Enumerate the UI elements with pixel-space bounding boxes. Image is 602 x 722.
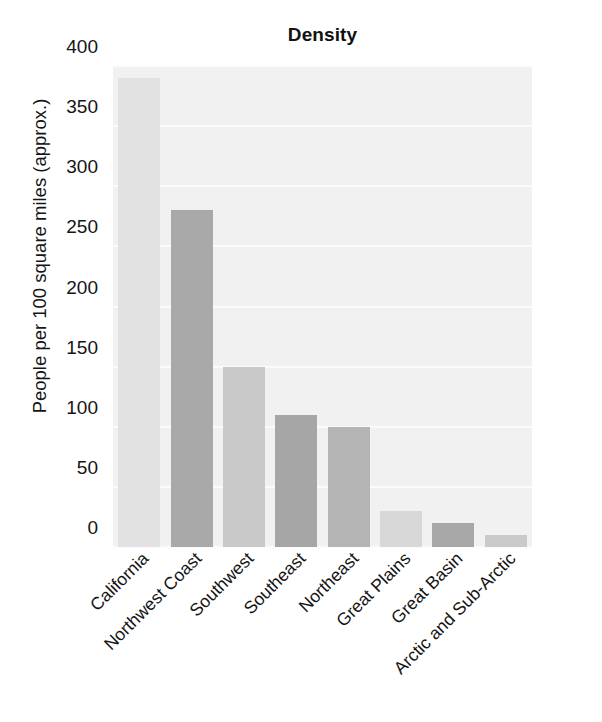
y-axis-tick-labels: 050100150200250300350400 xyxy=(0,66,106,547)
bar-series xyxy=(113,66,532,547)
bar xyxy=(171,210,213,547)
y-tick-label: 50 xyxy=(0,458,106,477)
y-tick-label: 250 xyxy=(0,217,106,236)
y-tick-label: 350 xyxy=(0,97,106,116)
bar xyxy=(485,535,527,547)
y-tick-label: 200 xyxy=(0,278,106,297)
y-tick-label: 150 xyxy=(0,338,106,357)
y-tick-label: 400 xyxy=(0,37,106,56)
bar xyxy=(328,427,370,547)
bar xyxy=(432,523,474,547)
bar xyxy=(118,78,160,547)
bar xyxy=(380,511,422,547)
y-tick-label: 0 xyxy=(0,518,106,537)
plot-area xyxy=(113,66,532,547)
bar xyxy=(275,415,317,547)
bar xyxy=(223,367,265,547)
y-tick-label: 300 xyxy=(0,157,106,176)
chart-figure: Density People per 100 square miles (app… xyxy=(0,0,602,722)
chart-title: Density xyxy=(113,24,532,46)
x-axis-tick-labels: CaliforniaNorthwest CoastSouthwestSouthe… xyxy=(113,549,532,719)
y-tick-label: 100 xyxy=(0,398,106,417)
